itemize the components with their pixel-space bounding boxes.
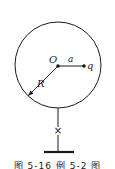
radius-label: R bbox=[36, 78, 45, 89]
charge-point-dot bbox=[82, 64, 86, 68]
distance-label: a bbox=[68, 54, 73, 64]
charge-label: q bbox=[87, 60, 93, 71]
conducting-sphere-diagram: O a q R × bbox=[0, 0, 115, 169]
switch-icon: × bbox=[54, 125, 62, 136]
figure-caption: 图 5-16 例 5-2 图 bbox=[0, 159, 115, 169]
center-label: O bbox=[49, 54, 57, 65]
